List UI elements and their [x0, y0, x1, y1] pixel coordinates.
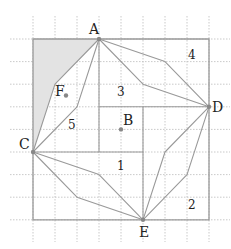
region-number-1: 1: [117, 159, 125, 173]
region-number-4: 4: [188, 48, 196, 62]
point-a-label: A: [88, 21, 100, 37]
point-c-label: C: [19, 136, 30, 152]
region-number-5: 5: [68, 118, 76, 132]
geometry-figure: ADECBF 12345: [0, 0, 231, 249]
point-e-label: E: [139, 224, 149, 240]
point-b-label: B: [123, 112, 133, 128]
region-number-3: 3: [117, 85, 125, 99]
region-number-2: 2: [188, 198, 196, 212]
point-c-dot: [31, 150, 35, 154]
point-a-dot: [97, 37, 101, 41]
zigzag-path: [143, 107, 209, 220]
point-d-dot: [207, 105, 211, 109]
point-d-label: D: [212, 99, 223, 115]
point-e-dot: [141, 218, 145, 222]
zigzag-path: [143, 107, 209, 220]
zigzag-path: [33, 152, 143, 220]
zigzag-path: [33, 152, 143, 220]
point-f-label: F: [55, 83, 65, 99]
